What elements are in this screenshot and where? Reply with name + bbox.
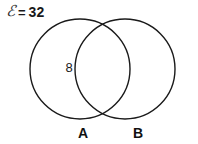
venn-circles-group [0,0,198,144]
set-circle-a[interactable] [30,19,130,119]
set-label-a: A [71,126,95,140]
set-circle-b[interactable] [75,19,175,119]
venn-diagram-canvas: ℰ = 32 8 A B [0,0,198,144]
region-value-a-only: 8 [58,61,80,74]
set-label-b: B [126,126,150,140]
